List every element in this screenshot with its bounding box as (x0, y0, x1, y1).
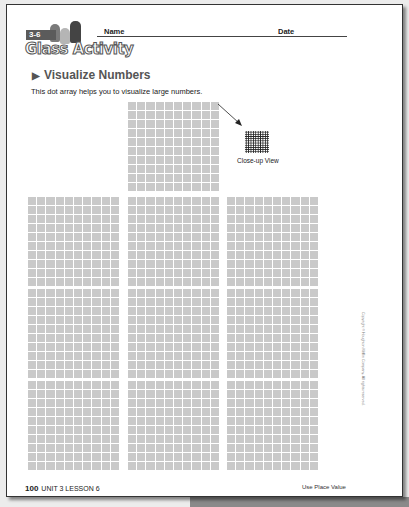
closeup-label: Close-up View (237, 157, 279, 164)
copyright-text: Copyright © Houghton Mifflin Company. Al… (361, 312, 365, 402)
footer-topic: Use Place Value (302, 484, 346, 490)
unit-lesson: UNIT 3 LESSON 6 (41, 485, 99, 492)
arrow-icon (0, 0, 409, 507)
closeup-dot-grid (245, 131, 269, 153)
page-number: 100 (25, 484, 38, 493)
footer-left: 100UNIT 3 LESSON 6 (25, 484, 100, 493)
